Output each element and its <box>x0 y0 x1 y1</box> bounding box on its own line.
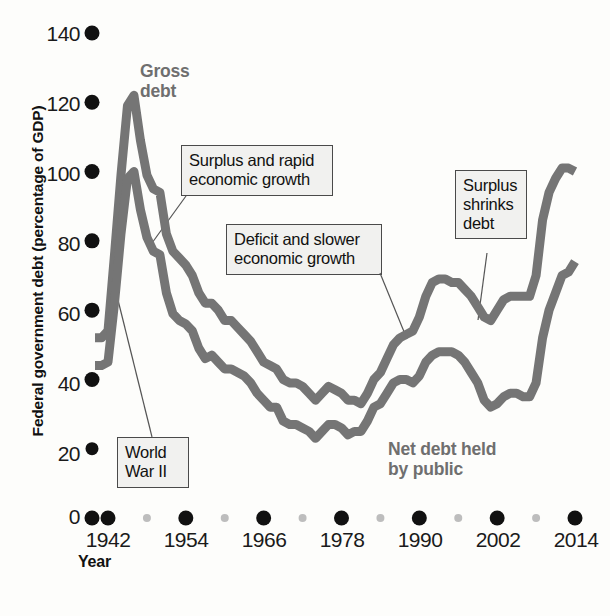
chart-container: Federal government debt (percentage of G… <box>0 0 610 616</box>
x-axis-tick-dot-1966 <box>256 511 271 526</box>
x-axis-minor-tick-dot-1972 <box>299 514 307 522</box>
y-axis-tick-dot-100 <box>85 164 100 179</box>
y-axis-tick-dot-20 <box>86 442 99 455</box>
y-axis-tick-dot-140 <box>85 26 100 41</box>
x-axis-minor-tick-dot-1984 <box>376 514 384 522</box>
x-axis-tick-dot-2014 <box>568 511 583 526</box>
y-axis-tick-dot-120 <box>85 95 100 110</box>
x-axis-minor-tick-dot-1960 <box>221 514 229 522</box>
x-axis-minor-tick-dot-2008 <box>532 514 540 522</box>
x-axis-tick-dot-2002 <box>490 511 505 526</box>
x-axis-tick-dot-1942 <box>101 511 116 526</box>
y-axis-tick-dot-0 <box>85 511 100 526</box>
y-axis-tick-dot-40 <box>85 372 100 387</box>
series-path-gross-debt <box>95 95 575 403</box>
y-axis-tick-dot-80 <box>85 233 100 248</box>
x-axis-tick-dot-1990 <box>412 511 427 526</box>
chart-plot-area <box>0 0 610 616</box>
x-axis-minor-tick-dot-1996 <box>454 514 462 522</box>
x-axis-tick-dot-1978 <box>334 511 349 526</box>
leader-line-deficit-slower-growth <box>380 273 407 339</box>
x-axis-tick-dot-1954 <box>178 511 193 526</box>
x-axis-minor-tick-dot-1948 <box>143 514 151 522</box>
y-axis-tick-dot-60 <box>85 303 100 318</box>
leader-line-world-war-ii <box>118 300 152 437</box>
